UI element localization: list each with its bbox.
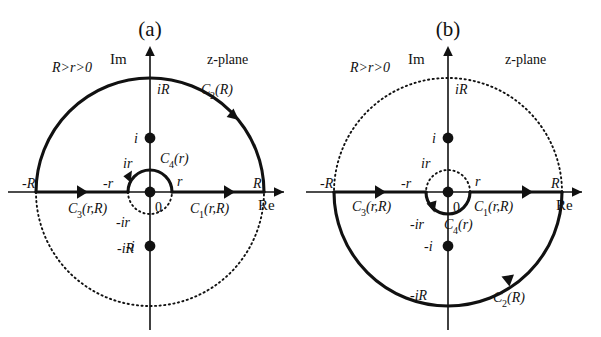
pole-origin-dot: [443, 187, 454, 198]
panel-a-origin-label: 0: [155, 200, 162, 215]
contour-figure: (a) R>r>0 z-plane Im Re iR -iR -R R -r r…: [0, 0, 601, 337]
panel-b-tick-R: R: [550, 176, 560, 191]
panel-b-tick-iR: iR: [455, 82, 468, 97]
panel-b-origin-label: 0: [453, 200, 460, 215]
panel-a-tick-ir: ir: [123, 156, 133, 171]
panel-b-tick-neg-r: -r: [401, 176, 412, 191]
panel-a-tick-neg-R: -R: [22, 176, 36, 191]
panel-b-tick-neg-R: -R: [320, 176, 334, 191]
contour-C3-arrowhead: [77, 185, 88, 199]
panel-b-condition-label: R>r>0: [349, 60, 390, 75]
panel-b-contour-label-C3: C 3 (r,R): [352, 199, 392, 218]
imaginary-axis-arrowhead: [443, 46, 453, 56]
pole-minus-i-dot: [443, 241, 454, 252]
pole-i-dot: [443, 133, 454, 144]
panel-b-diagram: (b) R>r>0 z-plane Im Re iR -iR -R R -r r…: [300, 0, 601, 337]
contour-C2-label-arg: (R): [507, 290, 525, 306]
panel-a-tick-neg-r: -r: [103, 176, 114, 191]
panel-b-contour-label-C2: C 2 (R): [493, 290, 525, 309]
panel-a-tick-iR: iR: [157, 82, 170, 97]
real-axis-arrowhead: [274, 187, 284, 197]
panel-a-condition-label: R>r>0: [51, 60, 92, 75]
panel-a-tick-neg-ir: -ir: [116, 215, 131, 230]
contour-C4-label-arg: (r): [458, 217, 473, 233]
contour-C3-label-arg: (r,R): [366, 199, 392, 215]
contour-C2-label-arg: (R): [215, 82, 233, 98]
contour-C4-arrowhead: [123, 171, 132, 183]
panel-a-diagram: (a) R>r>0 z-plane Im Re iR -iR -R R -r r…: [0, 0, 300, 337]
pole-minus-i-dot: [145, 241, 156, 252]
panel-a-re-axis-label: Re: [258, 197, 275, 213]
panel-b-im-axis-label: Im: [408, 51, 425, 67]
contour-C4-label-arg: (r): [174, 151, 189, 167]
panel-a-tick-pole-neg-i: -i: [126, 239, 135, 254]
panel-a-contour-label-C4: C 4 (r): [160, 151, 189, 170]
panel-a-caption: (a): [138, 17, 161, 41]
panel-b-tick-ir: ir: [421, 156, 431, 171]
contour-C1-arrowhead: [522, 185, 533, 199]
imaginary-axis-arrowhead: [145, 46, 155, 56]
panel-a-contour-label-C1: C 1 (r,R): [190, 201, 230, 220]
contour-C1-arrowhead: [224, 185, 235, 199]
panel-b-tick-r: r: [475, 174, 481, 189]
panel-b-tick-neg-ir: -ir: [410, 217, 425, 232]
contour-C1-label-arg: (r,R): [204, 201, 230, 217]
panel-b-tick-pole-i: i: [432, 131, 436, 146]
panel-a-tick-pole-i: i: [134, 131, 138, 146]
contour-C1-label-arg: (r,R): [488, 199, 514, 215]
panel-a-tick-R: R: [252, 176, 262, 191]
panel-b-tick-neg-iR: -iR: [410, 288, 428, 303]
panel-a-im-axis-label: Im: [110, 51, 127, 67]
panel-a-tick-r: r: [177, 174, 183, 189]
panel-a-contour-label-C3: C 3 (r,R): [68, 201, 108, 220]
panel-b-tick-pole-neg-i: -i: [424, 239, 433, 254]
panel-b-plane-label: z-plane: [505, 52, 546, 67]
panel-a-plane-label: z-plane: [207, 52, 248, 67]
panel-b-caption: (b): [436, 17, 461, 41]
panel-b-re-axis-label: Re: [556, 197, 573, 213]
contour-C3-arrowhead: [375, 185, 386, 199]
pole-origin-dot: [145, 187, 156, 198]
real-axis-arrowhead: [572, 187, 582, 197]
panel-b: (b) R>r>0 z-plane Im Re iR -iR -R R -r r…: [300, 0, 601, 337]
contour-C3-label-arg: (r,R): [82, 201, 108, 217]
panel-b-contour-label-C1: C 1 (r,R): [474, 199, 514, 218]
panel-a: (a) R>r>0 z-plane Im Re iR -iR -R R -r r…: [0, 0, 300, 337]
pole-i-dot: [145, 133, 156, 144]
